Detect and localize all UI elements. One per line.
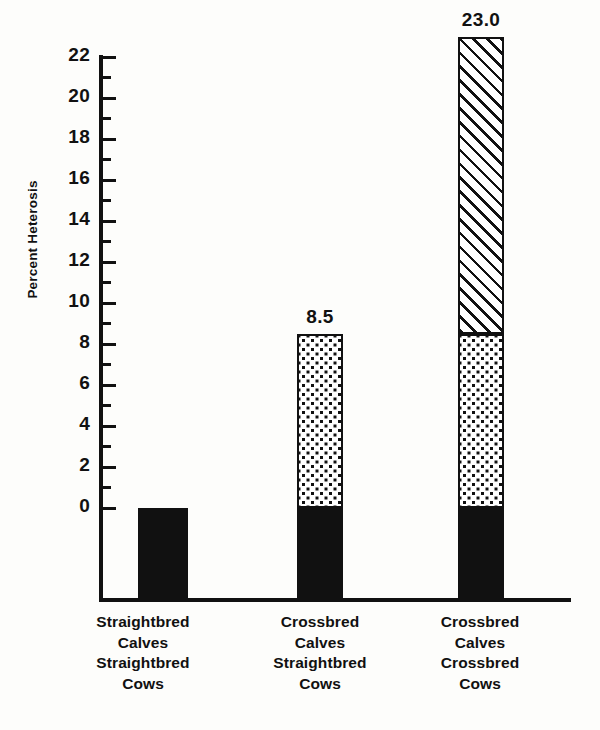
y-axis-tick-major: [103, 179, 116, 182]
y-axis-tick-label: 0: [44, 495, 90, 517]
bar-value-label: 23.0: [421, 9, 541, 31]
y-axis-tick-major: [103, 507, 116, 510]
x-axis-category-label-3: Crossbred Calves Crossbred Cows: [385, 612, 575, 694]
bar-chart: Percent Heterosis 0246810121416182022 St…: [0, 0, 600, 730]
bar-segment-dotted: [458, 334, 504, 508]
y-axis-tick-label: 18: [44, 126, 90, 148]
y-axis-tick-major: [103, 261, 116, 264]
y-axis-tick-label: 6: [44, 372, 90, 394]
y-axis-tick-label: 16: [44, 167, 90, 189]
y-axis-tick-minor: [103, 199, 111, 202]
y-axis-tick-minor: [103, 363, 111, 366]
y-axis-tick-minor: [103, 281, 111, 284]
y-axis-tick-minor: [103, 445, 111, 448]
category-line: Cows: [385, 674, 575, 695]
y-axis-tick-major: [103, 384, 116, 387]
y-axis-tick-major: [103, 302, 116, 305]
y-axis-tick-minor: [103, 486, 111, 489]
y-axis-tick-label: 22: [44, 44, 90, 66]
y-axis-tick-label: 10: [44, 290, 90, 312]
x-axis-category-label-1: Straightbred Calves Straightbred Cows: [48, 612, 238, 694]
y-axis-tick-minor: [103, 240, 111, 243]
y-axis-tick-minor: [103, 117, 111, 120]
y-axis-tick-label: 20: [44, 85, 90, 107]
y-axis-tick-major: [103, 220, 116, 223]
bar-value-label: 8.5: [260, 306, 380, 328]
y-axis-tick-major: [103, 138, 116, 141]
y-axis-tick-minor: [103, 158, 111, 161]
y-axis-tick-major: [103, 466, 116, 469]
category-line: Cows: [48, 674, 238, 695]
y-axis-title: Percent Heterosis: [25, 150, 40, 330]
y-axis-tick-major: [103, 56, 116, 59]
category-line: Straightbred: [48, 612, 238, 633]
y-axis-tick-label: 8: [44, 331, 90, 353]
y-axis-tick-minor: [103, 322, 111, 325]
y-axis-tick-major: [103, 97, 116, 100]
category-line: Calves: [385, 633, 575, 654]
y-axis-tick-major: [103, 425, 116, 428]
category-line: Calves: [48, 633, 238, 654]
bar-segment-solid: [297, 508, 343, 600]
bar: [297, 334, 343, 600]
y-axis-tick-minor: [103, 404, 111, 407]
y-axis-tick-minor: [103, 76, 111, 79]
bar-segment-solid: [138, 508, 188, 600]
y-axis-tick-label: 4: [44, 413, 90, 435]
y-axis-tick-major: [103, 343, 116, 346]
bar: [138, 508, 188, 600]
y-axis-tick-label: 12: [44, 249, 90, 271]
bar-segment-solid: [458, 508, 504, 600]
bar-segment-dotted: [297, 334, 343, 508]
category-line: Crossbred: [385, 653, 575, 674]
bar-segment-hatched: [458, 37, 504, 334]
y-axis-tick-label: 14: [44, 208, 90, 230]
bar: [458, 37, 504, 601]
category-line: Straightbred: [48, 653, 238, 674]
y-axis-tick-label: 2: [44, 454, 90, 476]
category-line: Crossbred: [385, 612, 575, 633]
